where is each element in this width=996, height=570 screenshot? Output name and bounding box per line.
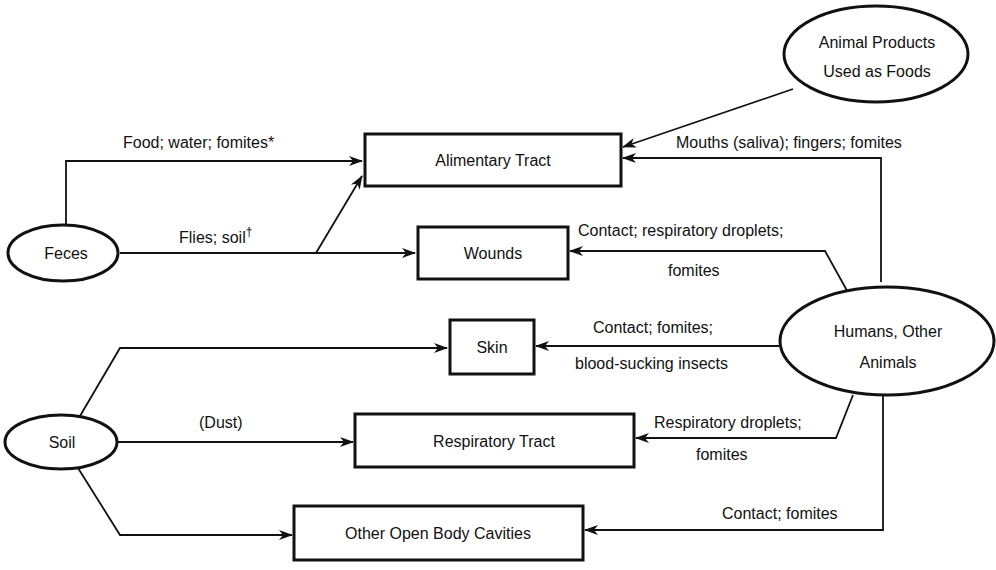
node-skin: Skin xyxy=(450,320,534,374)
node-wounds: Wounds xyxy=(418,227,568,279)
label-soil-respiratory: (Dust) xyxy=(199,414,243,431)
label-humans-respiratory-line1: Respiratory droplets; xyxy=(654,414,802,431)
node-feces: Feces xyxy=(8,225,118,281)
edge-feces-alimentary xyxy=(66,161,362,227)
soil-label: Soil xyxy=(49,434,76,451)
edge-humans-alimentary xyxy=(623,158,881,282)
wounds-label: Wounds xyxy=(464,245,522,262)
node-animal-products: Animal Products Used as Foods xyxy=(784,6,968,102)
label-humans-respiratory-line2: fomites xyxy=(696,446,748,463)
alimentary-tract-label: Alimentary Tract xyxy=(435,152,551,169)
skin-label: Skin xyxy=(476,339,507,356)
node-humans-other-animals: Humans, Other Animals xyxy=(780,287,994,395)
label-humans-skin-line1: Contact; fomites; xyxy=(593,319,713,336)
feces-label: Feces xyxy=(44,245,88,262)
label-humans-wounds-line2: fomites xyxy=(668,262,720,279)
label-humans-skin-line2: blood-sucking insects xyxy=(575,355,728,372)
node-soil: Soil xyxy=(5,415,117,469)
edge-soil-cavities xyxy=(78,468,292,535)
node-alimentary-tract: Alimentary Tract xyxy=(365,134,621,186)
humans-animals-label-line2: Animals xyxy=(860,354,917,371)
edge-soil-skin xyxy=(80,348,447,416)
animal-products-label-line2: Used as Foods xyxy=(823,63,931,80)
label-feces-wounds: Flies; soil† xyxy=(179,225,252,246)
label-humans-cavities: Contact; fomites xyxy=(722,505,838,522)
label-humans-alimentary: Mouths (saliva); fingers; fomites xyxy=(676,134,902,151)
humans-animals-label-line1: Humans, Other xyxy=(834,323,943,340)
animal-products-label-line1: Animal Products xyxy=(819,34,936,51)
label-humans-wounds-line1: Contact; respiratory droplets; xyxy=(578,222,783,239)
node-other-open-body-cavities: Other Open Body Cavities xyxy=(294,506,583,560)
transmission-diagram: Alimentary Tract Wounds Skin Respiratory… xyxy=(0,0,996,570)
edge-flies-alimentary xyxy=(316,176,362,253)
label-feces-alimentary: Food; water; fomites* xyxy=(123,134,274,151)
node-respiratory-tract: Respiratory Tract xyxy=(355,414,634,467)
respiratory-tract-label: Respiratory Tract xyxy=(433,433,555,450)
other-open-body-cavities-label: Other Open Body Cavities xyxy=(345,525,531,542)
